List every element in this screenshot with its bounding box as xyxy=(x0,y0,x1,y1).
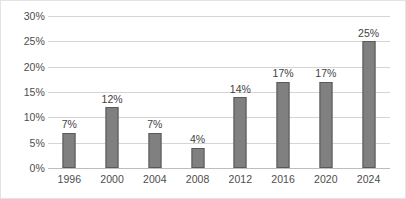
bar-slot: 17% xyxy=(305,16,348,168)
bar-value-label: 7% xyxy=(62,119,77,130)
bar-slot: 7% xyxy=(134,16,177,168)
bar[interactable] xyxy=(277,82,290,168)
x-axis-tick-label: 2000 xyxy=(100,173,124,187)
bar[interactable] xyxy=(191,148,204,168)
bar-slot: 12% xyxy=(91,16,134,168)
x-axis-tick-label: 2012 xyxy=(228,173,252,187)
bar-value-label: 7% xyxy=(147,119,162,130)
y-axis-tick-label: 15% xyxy=(1,87,45,98)
bar[interactable] xyxy=(148,133,161,168)
y-axis: 0%5%10%15%20%25%30% xyxy=(1,16,45,168)
y-axis-tick-label: 10% xyxy=(1,112,45,123)
y-axis-tick-label: 5% xyxy=(1,137,45,148)
gridline xyxy=(48,168,390,169)
bar-slot: 25% xyxy=(347,16,390,168)
x-axis-tick-label: 1996 xyxy=(57,173,81,187)
x-axis-tick-label: 2020 xyxy=(314,173,338,187)
bar-slot: 17% xyxy=(262,16,305,168)
bar-value-label: 25% xyxy=(358,28,379,39)
bar[interactable] xyxy=(106,107,119,168)
plot-area: 7%12%7%4%14%17%17%25% xyxy=(48,16,390,168)
bar[interactable] xyxy=(319,82,332,168)
y-axis-tick-label: 20% xyxy=(1,61,45,72)
bar-value-label: 17% xyxy=(272,68,293,79)
bar-chart: 0%5%10%15%20%25%30% 7%12%7%4%14%17%17%25… xyxy=(0,0,406,199)
x-axis-tick-label: 2008 xyxy=(186,173,210,187)
bar[interactable] xyxy=(63,133,76,168)
y-axis-tick-label: 0% xyxy=(1,163,45,174)
x-axis-tick-label: 2024 xyxy=(357,173,381,187)
bar-value-label: 14% xyxy=(230,84,251,95)
x-axis: 19962000200420082012201620202024 xyxy=(48,173,390,189)
bar-value-label: 12% xyxy=(101,94,122,105)
x-axis-tick-label: 2004 xyxy=(143,173,167,187)
bar[interactable] xyxy=(234,97,247,168)
bar-slot: 7% xyxy=(48,16,91,168)
bar-value-label: 17% xyxy=(315,68,336,79)
bar-slot: 4% xyxy=(176,16,219,168)
y-axis-tick-label: 30% xyxy=(1,11,45,22)
x-axis-tick-label: 2016 xyxy=(271,173,295,187)
bar-slot: 14% xyxy=(219,16,262,168)
bar-value-label: 4% xyxy=(190,134,205,145)
y-axis-tick-label: 25% xyxy=(1,36,45,47)
bar[interactable] xyxy=(362,41,375,168)
